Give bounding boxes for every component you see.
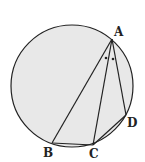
label-d: D — [127, 116, 137, 130]
label-b: B — [43, 146, 53, 160]
geometry-diagram: A B C D — [0, 0, 145, 162]
angle-mark-dot-1 — [105, 57, 108, 60]
angle-mark-dot-2 — [112, 58, 115, 61]
circle-figure: A B C D — [0, 0, 145, 162]
circle — [11, 25, 133, 147]
label-c: C — [89, 147, 99, 161]
label-a: A — [113, 25, 124, 39]
